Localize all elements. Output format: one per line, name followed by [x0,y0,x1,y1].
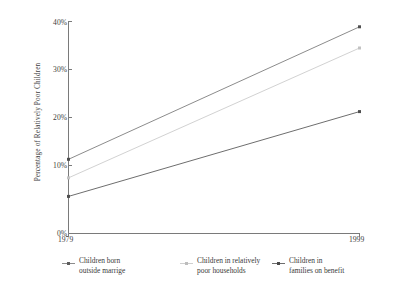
series-line [67,47,361,180]
y-tick-marks [69,22,73,234]
series-line [67,110,361,198]
legend-label-line1: Children in [289,256,322,265]
legend-item-children-in-relatively-poor-households[interactable]: Children in relativelypoor households [180,256,260,275]
data-point-marker [67,176,70,179]
series-layer [67,25,361,198]
chart-legend: Children bornoutside marrige Children in… [0,256,393,292]
line-marker-icon [62,259,75,268]
legend-label-line2: poor households [197,266,246,275]
line-marker-icon [180,259,193,268]
x-tick-marks [69,234,360,238]
series-polyline [69,27,360,160]
series-polyline [69,112,360,197]
legend-label: Children infamilies on benefit [289,256,344,275]
line-marker-icon [272,259,285,268]
data-point-marker [67,158,70,161]
legend-label-line1: Children born [79,256,120,265]
legend-item-children-born-outside-marrige[interactable]: Children bornoutside marrige [62,256,125,275]
plot-area [0,0,393,295]
data-point-marker [358,110,361,113]
legend-label-line2: families on benefit [289,266,344,275]
legend-item-children-in-families-on-benefit[interactable]: Children infamilies on benefit [272,256,344,275]
legend-label: Children bornoutside marrige [79,256,125,275]
series-line [67,25,361,161]
data-point-marker [67,195,70,198]
line-chart: Percentage of Relatively Poor Children 4… [0,0,393,295]
series-polyline [69,48,360,178]
data-point-marker [358,47,361,50]
data-point-marker [358,25,361,28]
legend-label-line2: outside marrige [79,266,125,275]
legend-label: Children in relativelypoor households [197,256,260,275]
legend-label-line1: Children in relatively [197,256,260,265]
